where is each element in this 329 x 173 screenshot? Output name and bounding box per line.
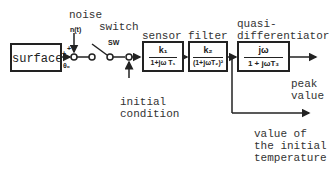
filter-fraction-line: [193, 57, 223, 58]
noise-label: noise: [69, 9, 102, 21]
quasi-title-line1: quasi-: [237, 18, 277, 30]
plus-sign-left: +: [62, 50, 66, 57]
filter-denominator: (1+jωT₂)²: [190, 59, 226, 66]
filter-block: k₂ (1+jωT₂)²: [188, 41, 228, 72]
sensor-numerator: k₁: [144, 45, 182, 55]
sensor-block: k₁ 1+jω T₁: [142, 41, 184, 72]
quasi-differentiator-block: jω 1 + jωT₃: [237, 41, 290, 72]
sw-label: SW: [108, 39, 119, 46]
quasi-numerator: jω: [239, 45, 288, 55]
quasi-fraction-line: [244, 57, 283, 58]
quasi-denominator: 1 + jωT₃: [239, 59, 288, 68]
peak-value-label: peak value: [291, 78, 324, 102]
filter-numerator: k₂: [190, 45, 226, 55]
noise-signal-label: n(t): [70, 26, 81, 33]
initial-temperature-label: value of the initial temperature: [254, 128, 327, 164]
plus-sign-top: +: [67, 45, 71, 52]
theta-label: θ₀: [63, 62, 70, 69]
surface-block: surface: [10, 43, 62, 72]
initial-condition-label: initial condition: [120, 96, 179, 120]
surface-label: surface: [12, 52, 60, 66]
switch-label: switch: [99, 21, 139, 33]
sensor-fraction-line: [149, 57, 177, 58]
sensor-denominator: 1+jω T₁: [144, 59, 182, 66]
